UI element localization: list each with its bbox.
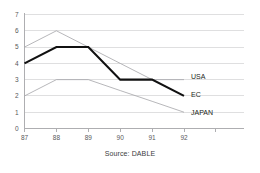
y-tick-label-3: 3 xyxy=(15,76,19,83)
source-caption: Source: DABLE xyxy=(0,150,260,157)
series-label-ec: EC xyxy=(191,91,201,98)
y-tick-label-1: 1 xyxy=(15,109,19,116)
y-tick-label-0: 0 xyxy=(15,125,19,132)
y-tick-label-2: 2 xyxy=(15,92,19,99)
series-line-group xyxy=(25,31,185,112)
chart-plot-area: 01234567 878889909192 USAECJAPAN xyxy=(0,0,260,173)
series-label-usa: USA xyxy=(191,73,206,80)
y-tick-label-5: 5 xyxy=(15,43,19,50)
series-line-usa xyxy=(25,31,185,80)
y-tick-label-6: 6 xyxy=(15,27,19,34)
x-tick-label-91: 91 xyxy=(148,134,156,141)
series-label-japan: JAPAN xyxy=(191,109,213,116)
x-tick-label-87: 87 xyxy=(21,134,29,141)
y-axis-tick-labels: 01234567 xyxy=(15,11,19,132)
x-tick-label-92: 92 xyxy=(180,134,188,141)
y-tick-label-4: 4 xyxy=(15,60,19,67)
x-tick-label-89: 89 xyxy=(85,134,93,141)
series-end-labels: USAECJAPAN xyxy=(191,73,213,117)
x-tick-label-88: 88 xyxy=(53,134,61,141)
series-line-ec xyxy=(25,47,185,96)
line-chart-figure: 01234567 878889909192 USAECJAPAN Source:… xyxy=(0,0,260,173)
x-tick-label-90: 90 xyxy=(117,134,125,141)
x-axis-tick-labels: 878889909192 xyxy=(21,134,188,141)
gridline-group xyxy=(25,15,245,113)
y-tick-label-7: 7 xyxy=(15,11,19,18)
